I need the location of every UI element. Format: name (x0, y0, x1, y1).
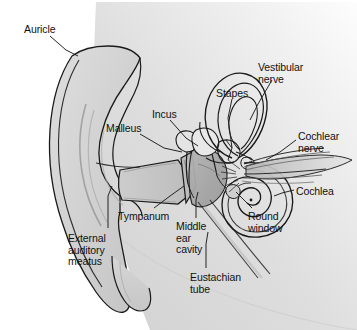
ear-anatomy-diagram: Auricle Vestibular nerve Stapes Incus Ma… (0, 0, 357, 330)
label-tympanum: Tympanum (118, 211, 169, 223)
round-window-shape (226, 185, 240, 199)
label-malleus: Malleus (106, 123, 141, 135)
leader-auricle (50, 36, 78, 56)
label-auricle: Auricle (24, 24, 55, 36)
label-round-window: Round window (248, 211, 282, 234)
label-incus: Incus (152, 109, 177, 121)
diagram-canvas (0, 0, 357, 330)
label-external-auditory-meatus: External auditory meatus (68, 233, 106, 268)
label-eustachian-tube: Eustachian tube (190, 272, 241, 295)
label-cochlea: Cochlea (296, 186, 334, 198)
label-vestibular-nerve: Vestibular nerve (258, 62, 303, 85)
label-cochlear-nerve: Cochlear nerve (298, 131, 339, 154)
label-middle-ear-cavity: Middle ear cavity (176, 221, 206, 256)
label-stapes: Stapes (216, 88, 248, 100)
